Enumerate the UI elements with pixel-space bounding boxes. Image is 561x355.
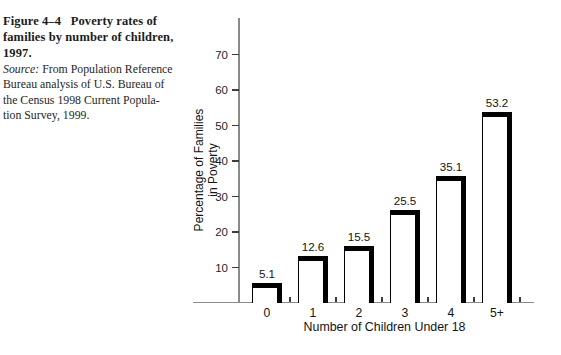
bar-value-label: 35.1 [421, 160, 481, 174]
y-axis-tick [232, 54, 239, 56]
x-tick-label: 1 [288, 306, 338, 320]
bar-value-label: 53.2 [467, 96, 527, 110]
y-axis-title-line-2: in Poverty [206, 60, 220, 280]
x-tick-label: 4 [426, 306, 476, 320]
x-axis-tick [335, 297, 337, 302]
figure-page: Figure 4–4 Poverty rates of families by … [0, 0, 561, 355]
x-axis-tick [519, 297, 521, 302]
bar-value-label: 5.1 [237, 267, 297, 281]
x-axis-tick [381, 297, 383, 302]
y-axis-title-line-1: Percentage of Families [192, 60, 206, 280]
x-tick-label: 0 [242, 306, 292, 320]
y-axis-tick [232, 231, 239, 233]
y-axis-tick [232, 125, 239, 127]
bar [390, 210, 420, 303]
x-axis-tick [473, 297, 475, 302]
x-axis-title: Number of Children Under 18 [239, 320, 530, 335]
bar [344, 246, 374, 303]
y-axis-title: Percentage of Familiesin Poverty [192, 60, 220, 280]
y-axis-tick [232, 160, 239, 162]
y-axis-tick [232, 196, 239, 198]
bar-value-label: 25.5 [375, 194, 435, 208]
x-tick-label: 2 [334, 306, 384, 320]
x-tick-label: 5+ [472, 306, 522, 320]
bar [436, 176, 466, 303]
bar [482, 112, 512, 303]
x-tick-label: 3 [380, 306, 430, 320]
y-axis-tick [232, 89, 239, 91]
bar-value-label: 15.5 [329, 230, 389, 244]
x-axis-tick [289, 297, 291, 302]
bar [252, 283, 282, 303]
bar [298, 256, 328, 303]
x-axis-tick [427, 297, 429, 302]
poverty-bar-chart: 102030405060705.1012.6115.5225.5335.1453… [0, 0, 561, 355]
